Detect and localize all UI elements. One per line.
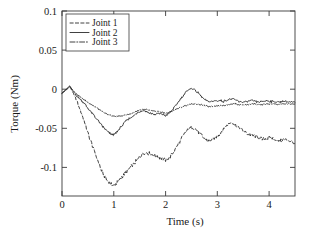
x-tick-label-4: 4: [266, 199, 272, 210]
torque-vs-time-line-chart: 0.1 0.05 0 -0.05 -0.1 0 1 2 3 4 Time (s)…: [0, 0, 313, 238]
y-tick-label-1: 0.05: [39, 45, 57, 56]
x-tick-label-3: 3: [215, 199, 220, 210]
legend-label-joint-2: Joint 2: [92, 28, 118, 38]
y-tick-label-3: -0.05: [35, 123, 57, 134]
legend: Joint 1 Joint 2 Joint 3: [66, 14, 129, 51]
y-tick-label-2: 0: [52, 84, 57, 95]
data-series-group: [62, 86, 295, 186]
y-axis-tick-labels: 0.1 0.05 0 -0.05 -0.1: [35, 6, 57, 173]
series-line-joint-2: [62, 86, 295, 136]
x-tick-label-2: 2: [163, 199, 168, 210]
y-tick-label-0: 0.1: [44, 6, 57, 17]
x-tick-label-0: 0: [59, 199, 64, 210]
y-tick-label-4: -0.1: [40, 162, 57, 173]
x-tick-label-1: 1: [111, 199, 116, 210]
x-axis-title: Time (s): [166, 215, 204, 228]
legend-label-joint-3: Joint 3: [92, 37, 118, 47]
x-axis-tick-labels: 0 1 2 3 4: [59, 199, 272, 210]
y-axis-title: Torque (Nm): [8, 75, 21, 133]
legend-label-joint-1: Joint 1: [92, 18, 118, 28]
chart-figure: 0.1 0.05 0 -0.05 -0.1 0 1 2 3 4 Time (s)…: [0, 0, 313, 238]
